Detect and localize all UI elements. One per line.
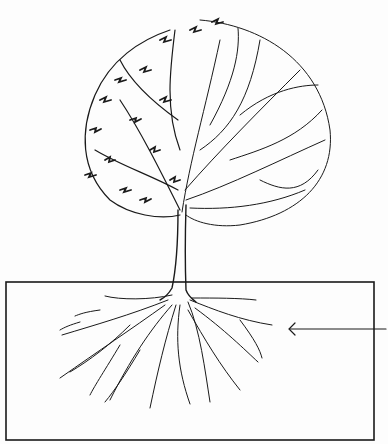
bare-branches: [182, 20, 330, 226]
tree-root-diagram: [0, 0, 388, 444]
trunk: [160, 205, 196, 302]
roots: [60, 295, 272, 408]
arrow-icon: [289, 323, 386, 335]
tree-drawing: [0, 0, 388, 444]
